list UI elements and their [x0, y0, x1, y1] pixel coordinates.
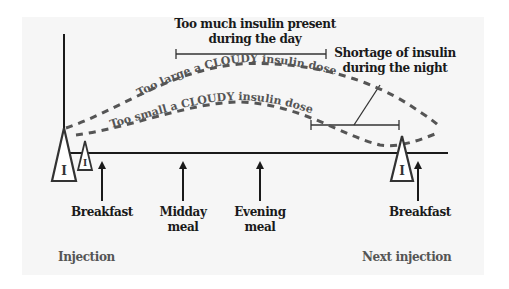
evening-meal-arrow: [256, 161, 264, 201]
shortage-bracket: [311, 85, 399, 130]
shortage-insulin-label: Shortage of insulin during the night: [330, 46, 460, 76]
meal-label-midday: Midday meal: [148, 205, 218, 235]
injection-marker-large: I: [52, 128, 76, 181]
injection-label: Injection: [58, 250, 115, 265]
breakfast-arrow: [98, 161, 106, 201]
midday-meal-arrow: [179, 161, 187, 201]
meal-label-evening: Evening meal: [225, 205, 295, 235]
svg-text:I: I: [83, 158, 87, 168]
next-breakfast-arrow: [414, 161, 422, 201]
meal-label-breakfast: Breakfast: [62, 205, 142, 220]
svg-text:I: I: [61, 164, 67, 178]
injection-marker-small: I: [78, 141, 92, 170]
too-much-insulin-label: Too much insulin present during the day: [160, 17, 350, 47]
svg-text:I: I: [399, 164, 405, 178]
next-injection-label: Next injection: [362, 250, 451, 265]
meal-label-next-breakfast: Breakfast: [380, 205, 460, 220]
